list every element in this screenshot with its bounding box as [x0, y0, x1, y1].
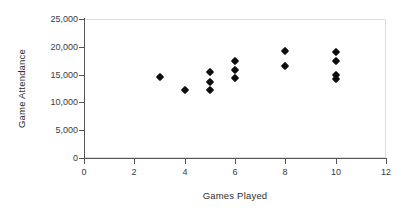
x-tick-label: 2 [119, 167, 149, 177]
x-axis-title: Games Played [84, 190, 386, 201]
y-tick-label: 5,000 [26, 126, 78, 135]
x-tick-mark [84, 159, 85, 164]
plot-area-border [84, 19, 386, 158]
y-tick-label: 20,000 [26, 43, 78, 52]
y-tick-label: 10,000 [26, 98, 78, 107]
y-tick-mark [79, 19, 84, 20]
y-tick-label: 15,000 [26, 71, 78, 80]
y-axis-title: Game Attendance [16, 19, 27, 158]
x-tick-label: 6 [220, 167, 250, 177]
x-tick-mark [285, 159, 286, 164]
y-tick-label: 25,000 [26, 15, 78, 24]
x-tick-mark [185, 159, 186, 164]
x-tick-label: 10 [321, 167, 351, 177]
y-tick-label: 0 [26, 154, 78, 163]
x-tick-label: 8 [270, 167, 300, 177]
y-tick-mark [79, 47, 84, 48]
x-tick-label: 0 [69, 167, 99, 177]
y-tick-mark [79, 102, 84, 103]
scatter-chart: 05,00010,00015,00020,00025,000 024681012… [0, 0, 414, 217]
x-tick-mark [386, 159, 387, 164]
y-tick-mark [79, 75, 84, 76]
x-tick-label: 4 [170, 167, 200, 177]
y-axis-title-container: Game Attendance [16, 19, 28, 158]
y-axis-line [84, 18, 85, 159]
x-tick-mark [336, 159, 337, 164]
x-tick-mark [235, 159, 236, 164]
y-tick-mark [79, 130, 84, 131]
x-tick-label: 12 [371, 167, 401, 177]
x-tick-mark [134, 159, 135, 164]
